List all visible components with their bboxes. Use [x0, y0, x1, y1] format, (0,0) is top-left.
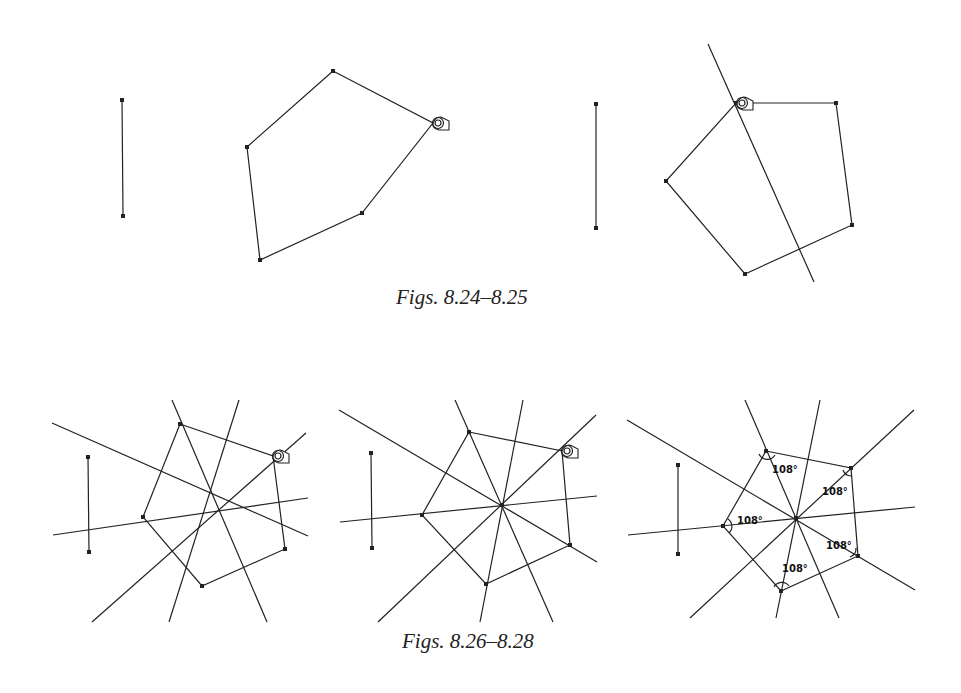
- symmetry-line: [92, 433, 306, 622]
- symmetry-line: [628, 507, 915, 535]
- symmetry-line: [52, 423, 308, 536]
- figure-8-24: [120, 69, 449, 262]
- symmetry-line: [169, 400, 239, 622]
- caption-top: Figs. 8.24–8.25: [396, 285, 528, 310]
- figure-8-28: 108° 108° 108° 108° 108°: [627, 400, 915, 618]
- symmetry-line: [745, 400, 839, 618]
- figure-8-26: [52, 400, 308, 622]
- reference-segment: [371, 453, 372, 548]
- reference-segment: [88, 457, 89, 552]
- hand-cursor-icon: [433, 117, 450, 130]
- angle-label-lower-right: 108°: [826, 540, 852, 551]
- hand-cursor-icon: [737, 97, 754, 110]
- reference-segment: [122, 100, 123, 216]
- symmetry-line: [708, 44, 814, 282]
- caption-bottom: Figs. 8.26–8.28: [402, 629, 534, 654]
- symmetry-line: [53, 498, 308, 535]
- pentagon: [666, 103, 852, 274]
- hand-cursor-icon: [273, 450, 290, 463]
- symmetry-line: [776, 400, 820, 618]
- angle-label-top: 108°: [772, 464, 798, 475]
- symmetry-line: [690, 410, 914, 618]
- symmetry-line: [378, 415, 596, 622]
- angle-label-upper-right: 108°: [822, 486, 848, 497]
- symmetry-line: [480, 400, 523, 622]
- hand-cursor-icon: [562, 445, 579, 458]
- pentagon: [422, 432, 570, 584]
- angle-label-bottom: 108°: [782, 563, 808, 574]
- figure-8-27: [339, 400, 597, 622]
- pentagon: [247, 71, 433, 260]
- symmetry-line: [340, 496, 597, 522]
- symmetry-line: [627, 420, 915, 590]
- angle-label-left: 108°: [737, 515, 763, 526]
- figure-8-25: [594, 44, 854, 282]
